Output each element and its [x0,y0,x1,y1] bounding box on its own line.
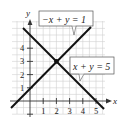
equation-label-1: −x + y = 1 [42,14,86,25]
x-tick-1: 1 [41,106,45,116]
x-axis-label: x [112,96,117,106]
x-tick-3: 3 [68,106,72,116]
x-tick-4: 4 [81,106,86,116]
graph: 1 2 3 4 5 1 2 3 4 x y −x + y = 1 x + y =… [0,0,130,130]
y-tick-1: 1 [20,83,24,93]
intersection-point [54,59,59,64]
x-axis-arrow-icon [106,99,112,104]
y-axis-label: y [25,8,30,18]
callout-eq1: −x + y = 1 [39,11,93,35]
x-tick-2: 2 [54,106,58,116]
x-tick-5: 5 [94,106,98,116]
y-tick-2: 2 [20,70,24,80]
y-tick-3: 3 [20,56,24,66]
equation-label-2: x + y = 5 [72,61,110,72]
callout-eq2: x + y = 5 [70,57,114,81]
tick-labels: 1 2 3 4 5 1 2 3 4 [20,43,98,116]
